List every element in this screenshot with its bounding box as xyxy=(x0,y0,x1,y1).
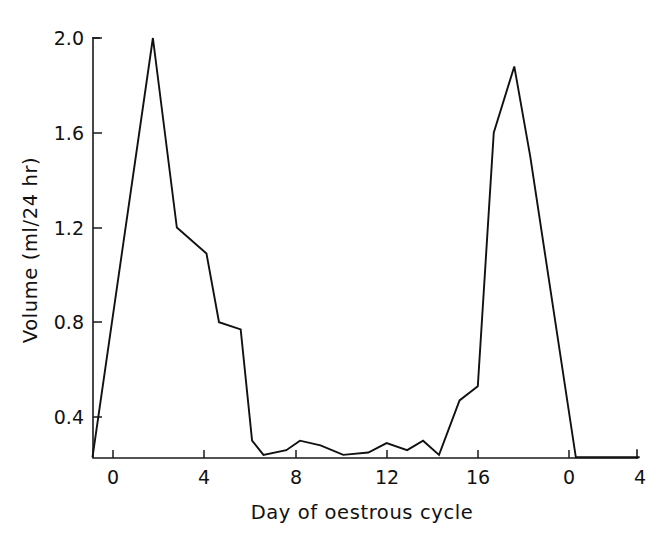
x-tick-label-12: 12 xyxy=(375,466,399,488)
x-tick-label-0a: 0 xyxy=(107,466,119,488)
x-tick-label-0b: 0 xyxy=(563,466,575,488)
y-axis-title: Volume (ml/24 hr) xyxy=(19,157,42,344)
x-tick-label-4a: 4 xyxy=(198,466,210,488)
y-tick-label-0-8: 0.8 xyxy=(54,311,84,333)
figure-canvas: 2.0 1.6 1.2 0.8 0.4 0 4 8 12 16 0 4 Volu… xyxy=(0,0,656,535)
x-tick-label-4b: 4 xyxy=(634,466,646,488)
y-tick-label-0-4: 0.4 xyxy=(54,406,84,428)
y-tick-label-1-6: 1.6 xyxy=(54,122,84,144)
line-chart: 2.0 1.6 1.2 0.8 0.4 0 4 8 12 16 0 4 Volu… xyxy=(0,0,656,535)
axis-spines xyxy=(93,38,637,458)
x-axis-title: Day of oestrous cycle xyxy=(251,501,474,524)
y-axis-ticks xyxy=(93,38,102,417)
y-tick-label-2-0: 2.0 xyxy=(54,27,84,49)
y-tick-label-1-2: 1.2 xyxy=(54,217,84,239)
data-series-volume xyxy=(92,38,639,457)
x-tick-label-16: 16 xyxy=(466,466,490,488)
x-tick-label-8: 8 xyxy=(290,466,302,488)
